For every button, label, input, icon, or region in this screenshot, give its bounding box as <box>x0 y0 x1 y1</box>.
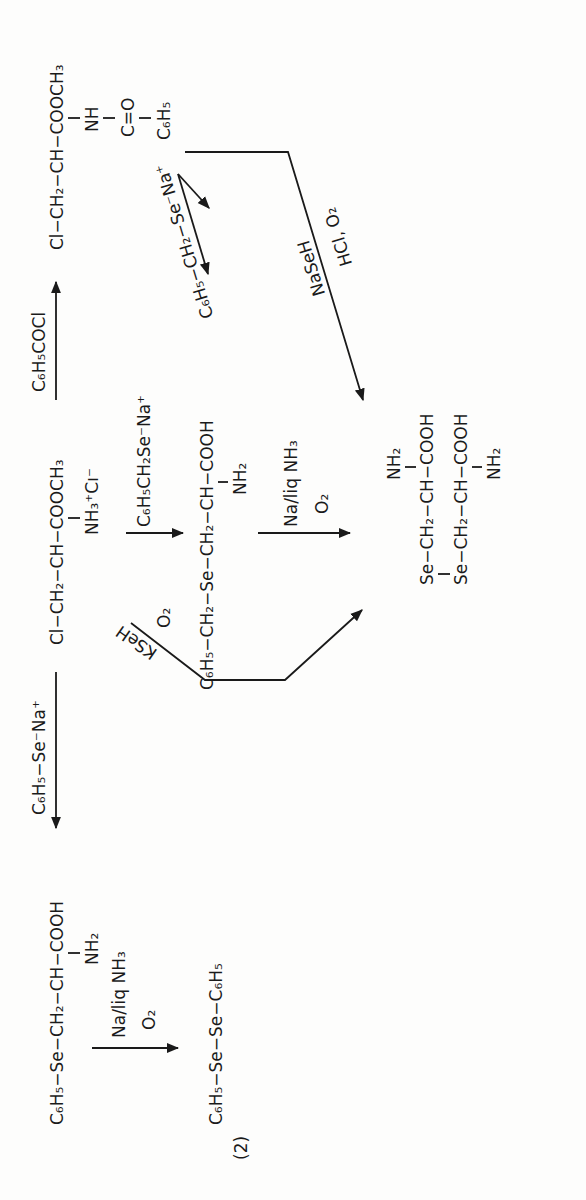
reagent-na-liq-nh3-center: Na/liq NH₃ <box>281 440 301 527</box>
benzoyl-ester-nh: NH <box>82 107 102 133</box>
benzoyl-ester-phenyl: C₆H₅ <box>154 102 174 140</box>
compound-phenyl-selenocysteine: C₆H₅−Se−CH₂−CH−COOH NH₂ <box>47 901 102 1125</box>
reagent-benzylselenide-upper: C₆H₅−CH₂−Se⁻Na⁺ <box>151 162 217 321</box>
selenocystine-top-amine: NH₂ <box>384 448 404 480</box>
reagent-o2-center: O₂ <box>312 494 332 514</box>
compound-diphenyl-diselenide: C₆H₅−Se−Se−C₆H₅ <box>206 963 226 1125</box>
compound-benzyl-selenocysteine: C₆H₅−CH₂−Se−CH₂−CH−COOH NH₂ <box>197 420 250 690</box>
benzyl-selenocysteine-amine: NH₂ <box>230 463 250 495</box>
compound-benzoyl-ester: Cl−CH₂−CH−COOCH₃ NH C=O C₆H₅ <box>47 64 174 250</box>
chloro-ester-ammonium: NH₃⁺Cı⁻ <box>82 468 102 535</box>
benzoyl-ester-co: C=O <box>118 98 138 138</box>
reagent-na-liq-nh3-left: Na/liq NH₃ <box>109 951 129 1038</box>
reagent-benzoylation: C₆H₅COCl <box>29 312 49 392</box>
reagent-phenylselenide: C₆H₅−Se⁻Na⁺ <box>29 700 49 815</box>
compound-chloro-ester: Cl−CH₂−CH−COOCH₃ NH₃⁺Cı⁻ <box>47 459 102 645</box>
compound-selenocystine: NH₂ Se−CH₂−CH−COOH Se−CH₂−CH−COOH NH₂ <box>384 413 504 585</box>
reagent-benzylselenide-center: C₆H₅CH₂Se⁻Na⁺ <box>134 395 154 527</box>
phenyl-selenocysteine-main: C₆H₅−Se−CH₂−CH−COOH <box>47 901 67 1125</box>
selenocystine-row1: Se−CH₂−CH−COOH <box>417 413 437 585</box>
scheme-label: (2) <box>231 1136 251 1160</box>
reagent-o2-left: O₂ <box>139 1010 159 1030</box>
phenyl-selenocysteine-amine: NH₂ <box>82 933 102 965</box>
reagent-o2-kseh: O₂ <box>154 608 174 628</box>
reagent-hcl-o2: HCl, O₂ <box>319 205 356 269</box>
benzoyl-ester-main: Cl−CH₂−CH−COOCH₃ <box>47 64 67 250</box>
selenocystine-bottom-amine: NH₂ <box>484 448 504 480</box>
reaction-scheme: Cl−CH₂−CH−COOCH₃ NH C=O C₆H₅ C₆H₅COCl Cl… <box>0 0 586 1200</box>
arrow-naseh-path <box>185 152 363 400</box>
selenocystine-row2: Se−CH₂−CH−COOH <box>451 413 471 585</box>
chloro-ester-main: Cl−CH₂−CH−COOCH₃ <box>47 459 67 645</box>
benzyl-selenocysteine-main: C₆H₅−CH₂−Se−CH₂−CH−COOH <box>197 420 217 690</box>
